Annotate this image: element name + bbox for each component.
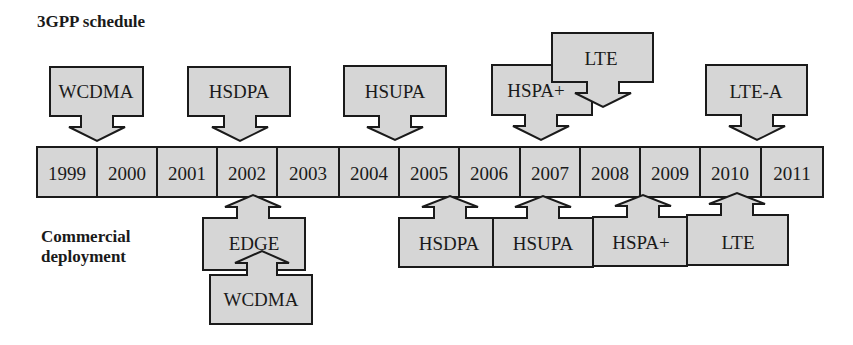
callout-deploy-hsdpa-label: HSDPA bbox=[419, 233, 480, 254]
callout-3gpp-lte-label: LTE bbox=[584, 48, 617, 69]
timeline-diagram: WCDMA HSDPA HSUPA HSPA+ LTE LTE-A bbox=[0, 0, 853, 345]
year-cell-2007: 2007 bbox=[531, 163, 569, 184]
year-cell-2006: 2006 bbox=[470, 163, 508, 184]
year-cell-2008: 2008 bbox=[591, 163, 629, 184]
callout-3gpp-hspa-plus-label: HSPA+ bbox=[507, 80, 565, 101]
year-cell-2004: 2004 bbox=[350, 163, 389, 184]
callout-deploy-hsdpa: HSDPA bbox=[399, 196, 493, 267]
year-cell-1999: 1999 bbox=[48, 163, 86, 184]
year-cell-2009: 2009 bbox=[651, 163, 689, 184]
callout-3gpp-wcdma-label: WCDMA bbox=[59, 81, 134, 102]
year-cell-2001: 2001 bbox=[168, 163, 206, 184]
callout-3gpp-hsupa-label: HSUPA bbox=[365, 81, 426, 102]
callout-3gpp-wcdma: WCDMA bbox=[50, 67, 143, 141]
callout-3gpp-lte-a-label: LTE-A bbox=[729, 81, 782, 102]
callout-3gpp-hsupa: HSUPA bbox=[344, 66, 446, 140]
callout-deploy-wcdma-label: WCDMA bbox=[224, 289, 299, 310]
year-timeline: 1999 2000 2001 2002 2003 2004 2005 2006 … bbox=[37, 147, 823, 197]
year-cell-2000: 2000 bbox=[108, 163, 146, 184]
year-cell-2010: 2010 bbox=[711, 163, 749, 184]
callout-deploy-edge-label: EDGE bbox=[229, 233, 280, 254]
year-cell-2002: 2002 bbox=[228, 163, 266, 184]
callout-3gpp-hsdpa: HSDPA bbox=[188, 67, 290, 141]
callout-deploy-hspa-plus-label: HSPA+ bbox=[612, 232, 670, 253]
callout-deploy-hsupa-label: HSUPA bbox=[513, 233, 574, 254]
year-cell-2003: 2003 bbox=[289, 163, 327, 184]
callout-3gpp-lte-a: LTE-A bbox=[706, 65, 807, 140]
year-cell-2011: 2011 bbox=[773, 163, 810, 184]
year-cell-2005: 2005 bbox=[410, 163, 448, 184]
callout-deploy-hsupa: HSUPA bbox=[493, 196, 593, 267]
callout-3gpp-hsdpa-label: HSDPA bbox=[209, 81, 270, 102]
callout-deploy-lte: LTE bbox=[687, 193, 788, 265]
callout-deploy-lte-label: LTE bbox=[721, 232, 754, 253]
callout-deploy-hspa-plus: HSPA+ bbox=[593, 195, 687, 266]
